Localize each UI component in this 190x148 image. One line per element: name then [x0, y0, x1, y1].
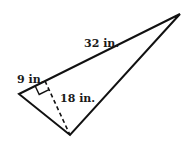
altitude-label: 18 in. [60, 92, 95, 105]
right-angle-marker [35, 86, 49, 95]
short-segment-label: 9 in. [17, 73, 45, 86]
hypotenuse-label: 32 in. [84, 37, 119, 50]
triangle-diagram: 32 in. 9 in. 18 in. [0, 0, 190, 148]
